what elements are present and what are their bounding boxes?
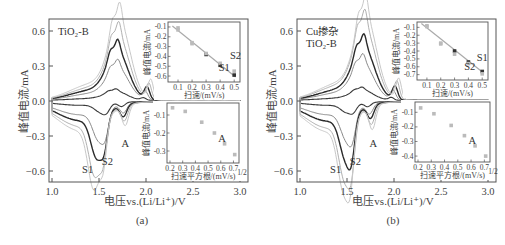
inset-point <box>425 24 429 28</box>
inset-bottom: 0.20.30.40.50.60.7-0.1-0.2-0.3-0.4扫速平方根/… <box>389 100 498 180</box>
x-tick-label: 2.5 <box>434 186 447 197</box>
figure: −0.6−0.30.00.30.61.01.52.02.53.0电压vs.(Li… <box>0 0 505 245</box>
inset-point <box>453 49 457 53</box>
inset-y-tick-label: -0.2 <box>402 122 414 131</box>
panel-a: −0.6−0.30.00.30.61.01.52.02.53.0电压vs.(Li… <box>17 2 248 227</box>
y-tick-label: −0.6 <box>274 166 293 177</box>
inset-y-tick-label: -0.7 <box>404 70 416 79</box>
y-tick-label: 0.0 <box>280 96 293 107</box>
inset-y-tick-label: -0.4 <box>402 152 414 161</box>
x-tick-label: 3.0 <box>233 186 246 197</box>
inset-label-s2: S2 <box>230 50 241 61</box>
y-tick-label: 0.3 <box>280 61 293 72</box>
inset-y-tick-label: -0.1 <box>402 108 414 117</box>
inset-frame <box>417 22 488 80</box>
inset-point <box>453 52 457 56</box>
x-tick-label: 3.0 <box>481 186 494 197</box>
y-axis-label: 峰值电流/mA <box>265 69 278 133</box>
inset-x-label: 扫速平方根/(mV/s) <box>420 170 485 180</box>
inset-top: 0.10.20.30.40.5-0.1-0.2-0.3-0.4-0.5-0.6扫… <box>142 20 244 100</box>
inset-y-label: 峰值电流/mA <box>142 29 152 75</box>
sample-label: TiO₂-B <box>58 26 89 37</box>
x-axis-label: 电压vs.(Li/Li⁺)/V <box>352 195 433 208</box>
inset-y-tick-label: -0.2 <box>154 129 166 138</box>
inset-frame <box>415 102 490 162</box>
inset-x-tick-label: 0.1 <box>173 83 183 92</box>
inset-frame <box>167 103 239 163</box>
inset-label-a: A <box>218 133 226 144</box>
panel-caption: (b) <box>387 214 400 227</box>
inset-y-tick-label: -0.3 <box>154 147 166 156</box>
peak-label-s2: S2 <box>102 156 113 167</box>
inset-y-tick-label: -0.4 <box>155 52 167 61</box>
inset-x-tick-label: 0.5 <box>230 83 240 92</box>
inset-x-tick-label: 0.1 <box>422 81 432 90</box>
y-tick-label: 0.0 <box>32 96 45 107</box>
peak-label-s2: S2 <box>350 156 361 167</box>
y-tick-label: 0.6 <box>32 26 45 37</box>
peak-label-a: A <box>370 138 378 149</box>
inset-y-tick-label: -0.3 <box>402 137 414 146</box>
panel-b: −0.6−0.30.00.30.61.01.52.02.53.0电压vs.(Li… <box>265 0 498 227</box>
panel-caption: (a) <box>136 214 149 227</box>
inset-y-label: 峰值电流/mA <box>391 28 401 74</box>
inset-point <box>176 26 180 30</box>
inset-y-tick-label: -0.5 <box>155 62 167 71</box>
inset-point <box>213 131 217 135</box>
inset-x-label: 扫速平方根/(mV/s) <box>171 171 236 181</box>
inset-point <box>419 106 423 110</box>
inset-y-tick-label: -0.6 <box>155 72 167 81</box>
y-tick-label: 0.6 <box>280 26 293 37</box>
inset-label-a: A <box>468 135 476 146</box>
inset-x-label-sup: 1/2 <box>488 167 498 176</box>
inset-point <box>232 69 236 73</box>
x-tick-label: 2.5 <box>186 186 199 197</box>
sample-label: Cu掺杂 <box>306 25 338 37</box>
inset-point <box>200 120 204 124</box>
inset-point <box>480 72 484 76</box>
inset-point <box>204 52 208 56</box>
inset-y-label: 峰值电流/mA <box>389 109 399 155</box>
inset-label-s2: S2 <box>464 61 475 72</box>
inset-y-tick-label: -0.1 <box>155 22 167 31</box>
peak-label-s1: S1 <box>330 164 341 175</box>
inset-point <box>439 42 443 46</box>
inset-point <box>233 153 237 157</box>
sample-label: TiO₂-B <box>306 38 337 49</box>
inset-x-tick-label: 0.5 <box>478 81 488 90</box>
peak-label-a: A <box>122 138 130 149</box>
inset-point <box>190 41 194 45</box>
inset-y-label: 峰值电流/mA <box>141 110 151 156</box>
inset-x-label: 扫速/(mV/s) <box>184 90 225 100</box>
peak-label-s1: S1 <box>82 164 93 175</box>
inset-label-s1: S1 <box>477 52 488 63</box>
inset-y-tick-label: -0.1 <box>154 111 166 120</box>
inset-x-label: 扫速/(mV/s) <box>432 88 473 98</box>
x-tick-label: 1.0 <box>293 186 306 197</box>
inset-point <box>432 112 436 116</box>
inset-point <box>171 106 175 110</box>
inset-bottom: 0.20.30.40.50.60.7-0.1-0.2-0.3扫速平方根/(mV/… <box>141 101 247 181</box>
inset-x-label-sup: 1/2 <box>237 168 247 177</box>
inset-point <box>232 73 236 77</box>
inset-top: 0.10.20.30.40.5-0.1-0.2-0.3-0.4-0.5-0.6-… <box>391 20 492 98</box>
inset-y-tick-label: -0.3 <box>155 42 167 51</box>
y-axis-label: 峰值电流/mA <box>17 69 30 133</box>
inset-label-s1: S1 <box>219 62 230 73</box>
inset-point <box>463 134 467 138</box>
x-tick-label: 1.0 <box>45 186 58 197</box>
inset-point <box>449 124 453 128</box>
inset-point <box>183 110 187 114</box>
inset-y-tick-label: -0.2 <box>155 32 167 41</box>
inset-point <box>484 154 488 158</box>
y-tick-label: −0.6 <box>26 166 45 177</box>
x-axis-label: 电压vs.(Li/Li⁺)/V <box>104 195 185 208</box>
y-tick-label: 0.3 <box>32 61 45 72</box>
